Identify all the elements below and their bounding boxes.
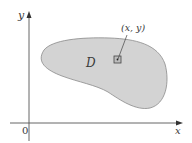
point-label: (x, y): [121, 22, 145, 33]
diagram-canvas: y 0 x D (x, y): [0, 0, 192, 143]
y-axis-label: y: [17, 9, 25, 22]
region-d: [41, 38, 167, 109]
region-label: D: [85, 56, 96, 70]
x-axis-label: x: [175, 125, 181, 136]
y-axis-arrow-icon: [27, 11, 32, 18]
origin-label: 0: [22, 125, 28, 136]
